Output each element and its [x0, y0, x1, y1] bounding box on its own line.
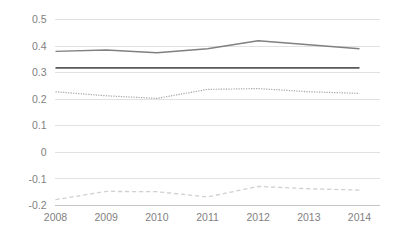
y-tick-label: 0.2 — [32, 93, 47, 105]
series-line-3 — [56, 89, 360, 99]
x-axis-tick-labels: 2008200920102011201220132014 — [44, 211, 372, 223]
x-tick-label: 2013 — [297, 211, 321, 223]
x-tick-label: 2014 — [348, 211, 372, 223]
chart-canvas: 0.50.40.30.20.10-0.1-0.2 200820092010201… — [0, 0, 400, 247]
y-tick-label: -0.1 — [28, 173, 46, 185]
x-tick-label: 2010 — [145, 211, 169, 223]
y-tick-label: 0.1 — [32, 119, 47, 131]
x-tick-label: 2011 — [196, 211, 219, 223]
y-tick-label: 0.3 — [32, 66, 47, 78]
series-line-4 — [56, 186, 360, 199]
x-tick-label: 2012 — [246, 211, 270, 223]
line-chart: 0.50.40.30.20.10-0.1-0.2 200820092010201… — [0, 0, 400, 247]
y-tick-label: -0.2 — [28, 199, 46, 211]
series-group — [56, 41, 360, 200]
y-tick-label: 0 — [41, 146, 47, 158]
x-tick-label: 2008 — [44, 211, 68, 223]
y-tick-label: 0.5 — [32, 13, 47, 25]
y-axis-tick-labels: 0.50.40.30.20.10-0.1-0.2 — [28, 13, 46, 211]
x-tick-label: 2009 — [94, 211, 118, 223]
y-tick-label: 0.4 — [32, 40, 47, 52]
series-line-1 — [56, 41, 360, 53]
